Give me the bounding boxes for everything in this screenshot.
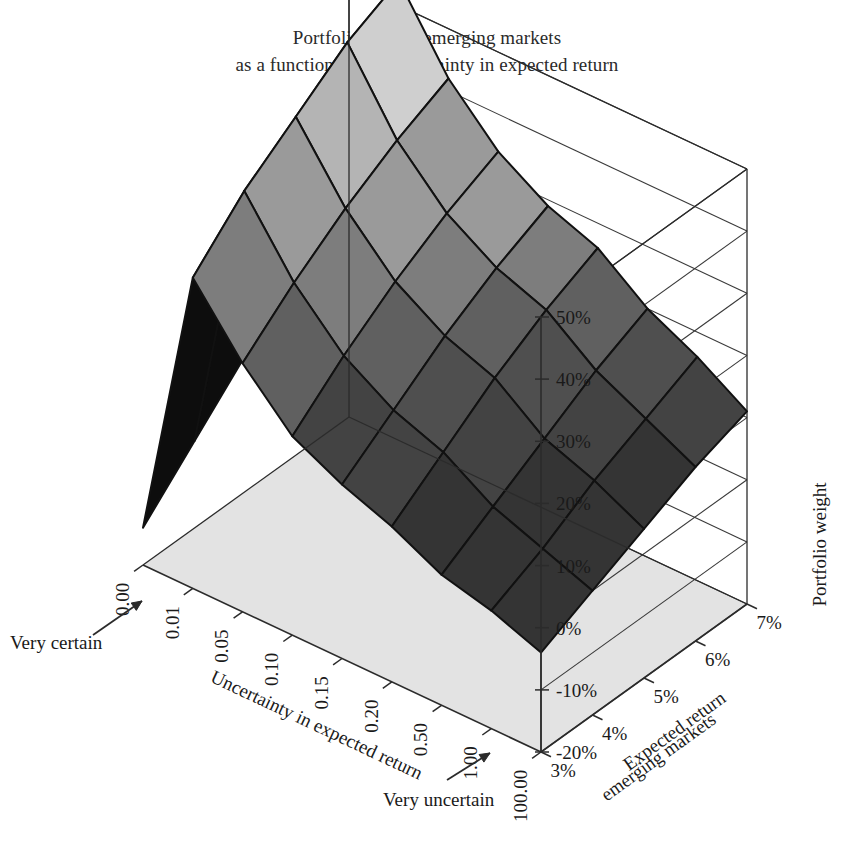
x-tick — [234, 612, 243, 618]
y-tick-label: 6% — [705, 649, 731, 670]
x-tick-label: 0.05 — [211, 629, 232, 662]
z-tick-label: 10% — [556, 556, 591, 577]
z-tick-label: 30% — [556, 431, 591, 452]
y-tick — [747, 604, 757, 609]
very-certain-label: Very certain — [10, 632, 103, 653]
x-tick — [134, 565, 143, 571]
y-tick — [696, 641, 706, 646]
y-tick-label: 5% — [653, 686, 679, 707]
surface-plot-svg: 50%40%30%20%10%0%-10%-20%Portfolio weigh… — [0, 0, 854, 845]
x-tick — [482, 729, 491, 735]
z-tick-label: -10% — [556, 680, 597, 701]
chart-figure: Portfolio weight emerging markets as a f… — [0, 0, 854, 845]
x-tick-label: 0.10 — [261, 653, 282, 686]
very-certain-arrow-head — [131, 601, 142, 610]
x-tick-label: 0.15 — [311, 676, 332, 709]
x-tick — [283, 635, 292, 641]
x-tick — [333, 659, 342, 665]
x-tick-label: 0.01 — [162, 606, 183, 639]
x-tick — [383, 682, 392, 688]
x-tick-label: 1.00 — [460, 746, 481, 779]
very-uncertain-label: Very uncertain — [383, 789, 495, 810]
y-tick — [644, 678, 654, 683]
z-tick-label: 0% — [556, 618, 582, 639]
x-tick-label: 0.00 — [112, 583, 133, 616]
z-tick-label: 20% — [556, 493, 591, 514]
x-tick-label: 0.20 — [361, 700, 382, 733]
z-axis-title: Portfolio weight — [809, 482, 830, 607]
z-tick-label: 50% — [556, 307, 591, 328]
x-tick — [433, 705, 442, 711]
x-tick — [184, 588, 193, 594]
y-tick-label: 3% — [550, 760, 576, 781]
x-tick-label: 100.00 — [510, 770, 531, 822]
x-tick — [532, 752, 541, 758]
y-tick-label: 7% — [756, 612, 782, 633]
x-tick-label: 0.50 — [410, 723, 431, 756]
z-tick-label: 40% — [556, 369, 591, 390]
y-tick — [593, 715, 603, 720]
y-tick-label: 4% — [602, 723, 628, 744]
